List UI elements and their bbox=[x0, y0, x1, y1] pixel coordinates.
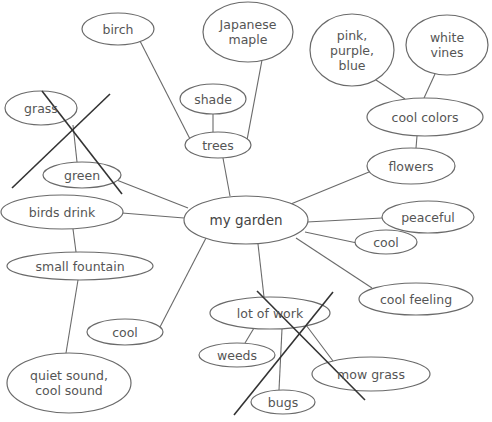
connector-line bbox=[424, 74, 435, 98]
node-birch bbox=[82, 13, 154, 45]
node-weeds bbox=[199, 343, 275, 367]
connector-line bbox=[258, 244, 264, 297]
node-grass bbox=[5, 91, 77, 125]
node-coolcolors bbox=[367, 98, 483, 136]
node-green bbox=[43, 162, 121, 188]
node-shade bbox=[180, 84, 246, 114]
connector-line bbox=[160, 238, 206, 327]
node-maple bbox=[203, 2, 293, 62]
connector-line bbox=[306, 325, 333, 361]
node-coolfeeling bbox=[359, 283, 473, 315]
node-cool_r bbox=[355, 230, 417, 254]
connector-line bbox=[223, 158, 230, 196]
connector-line bbox=[305, 232, 357, 243]
node-vines bbox=[406, 15, 488, 75]
node-flowers bbox=[367, 148, 455, 184]
mind-map-canvas bbox=[0, 0, 492, 422]
node-layer bbox=[1, 2, 488, 414]
connector-line bbox=[66, 280, 78, 353]
node-mow bbox=[312, 357, 430, 391]
connector-line bbox=[247, 60, 262, 140]
connector-line bbox=[286, 172, 369, 206]
connector-line bbox=[307, 218, 382, 222]
node-quiet bbox=[7, 353, 131, 413]
connector-line bbox=[114, 179, 188, 208]
connector-line bbox=[376, 80, 405, 99]
node-garden bbox=[184, 196, 308, 244]
connector-line bbox=[73, 229, 76, 252]
node-work bbox=[210, 297, 330, 329]
node-trees bbox=[185, 132, 251, 158]
node-bugs bbox=[251, 390, 315, 414]
node-peaceful bbox=[382, 201, 474, 233]
connector-line bbox=[245, 328, 254, 343]
node-ppb bbox=[310, 14, 394, 86]
connector-line bbox=[140, 41, 190, 139]
connector-line bbox=[122, 213, 184, 218]
node-cool_l bbox=[87, 319, 163, 345]
connector-line bbox=[416, 136, 417, 148]
node-birds bbox=[1, 195, 123, 229]
node-fountain bbox=[7, 252, 153, 280]
